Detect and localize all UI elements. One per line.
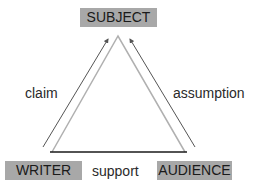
claim-label: claim — [25, 85, 58, 101]
inner-triangle-sides — [52, 36, 185, 152]
subject-node: SUBJECT — [80, 8, 157, 27]
audience-node: AUDIENCE — [157, 161, 232, 180]
support-label: support — [92, 163, 139, 179]
writer-node: WRITER — [5, 161, 82, 180]
assumption-label: assumption — [173, 85, 245, 101]
